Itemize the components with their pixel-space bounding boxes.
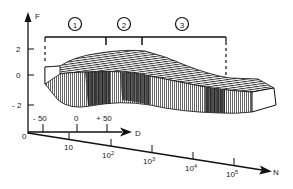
n-axis-label: N (273, 168, 279, 177)
d-tick-0: 0 (74, 114, 79, 123)
n-tick-10e4: 104 (185, 163, 197, 173)
surface-body (45, 50, 276, 113)
f-tick-minus2: - 2 (12, 101, 22, 110)
n-tick-10e2: 102 (102, 150, 114, 160)
n-axis: N 10 102 103 104 105 (28, 133, 279, 179)
n-tick-10: 10 (64, 143, 73, 152)
f-axis-label: F (35, 12, 40, 21)
region-3-label: 3 (180, 21, 185, 30)
f-tick-0: 0 (16, 71, 21, 80)
origin-label: 0 (22, 132, 27, 141)
f-tick-2: 2 (16, 45, 21, 54)
region-2-label: 2 (122, 21, 127, 30)
n-tick-10e3: 103 (143, 156, 155, 166)
n-tick-10e5: 105 (226, 169, 238, 179)
arrow-up-icon (25, 12, 32, 22)
d-axis: D - 50 0 + 50 (28, 114, 141, 138)
d-tick-plus50: + 50 (96, 114, 112, 123)
region-1-label: 1 (73, 21, 78, 30)
diagram-canvas: F 2 0 - 2 D - 50 0 + 50 0 N 10 102 103 1… (0, 0, 293, 189)
d-tick-minus50: - 50 (33, 114, 47, 123)
d-axis-label: D (135, 129, 141, 138)
